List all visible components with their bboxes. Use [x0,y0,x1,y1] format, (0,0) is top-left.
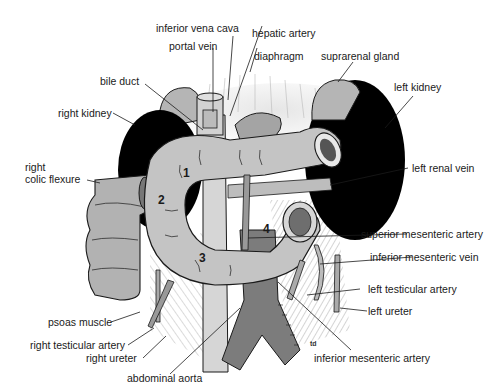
anatomy-diagram: 1 2 3 4 td [0,0,500,392]
label-left-kidney: left kidney [394,81,441,93]
label-right-colic-flexure-line1: right [25,161,45,173]
label-portal-vein: portal vein [169,40,217,52]
duodenum-part-4: 4 [263,222,270,236]
label-bile-duct: bile duct [100,75,139,87]
label-inferior-mesenteric-artery: inferior mesenteric artery [314,352,430,364]
label-superior-mesenteric-artery: superior mesenteric artery [361,228,483,240]
label-left-ureter: left ureter [368,305,412,317]
label-left-testicular-artery: left testicular artery [368,283,457,295]
label-inferior-vena-cava: inferior vena cava [156,22,239,34]
artist-signature: td [310,340,317,347]
label-hepatic-artery: hepatic artery [252,27,316,39]
label-suprarenal-gland: suprarenal gland [321,50,399,62]
label-abdominal-aorta: abdominal aorta [127,372,202,384]
label-right-ureter: right ureter [86,352,137,364]
duodenum-part-2: 2 [158,193,165,207]
label-diaphragm: diaphragm [254,50,304,62]
label-right-testicular-artery: right testicular artery [30,339,125,351]
duodenum-part-3: 3 [199,251,206,265]
duodenum-illustration: 1 2 3 4 td [0,0,500,392]
label-right-colic-flexure-line2: colic flexure [25,173,80,185]
label-inferior-mesenteric-vein: inferior mesenteric vein [370,251,479,263]
label-left-renal-vein: left renal vein [412,162,474,174]
duodenum-part-1: 1 [183,166,190,180]
label-right-kidney: right kidney [58,107,112,119]
label-psoas-muscle: psoas muscle [48,316,112,328]
